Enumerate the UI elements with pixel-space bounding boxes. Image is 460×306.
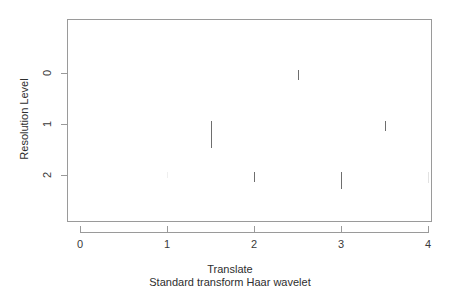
x-axis-title: Translate <box>0 263 460 276</box>
y-tick-1 <box>61 124 67 125</box>
plot-area <box>67 19 432 222</box>
x-tick-label-1: 1 <box>152 238 182 250</box>
coefficient-mark-l2-t2 <box>254 172 255 182</box>
y-tick-0 <box>61 73 67 74</box>
x-tick-1 <box>167 226 168 232</box>
y-tick-label-0: 0 <box>41 66 53 80</box>
y-axis-title: Resolution Level <box>18 59 30 179</box>
x-tick-label-4: 4 <box>413 238 443 250</box>
x-axis-line <box>80 232 429 233</box>
coefficient-mark-l2-t3 <box>341 172 342 189</box>
chart-canvas: 01234 012 Resolution Level Translate Sta… <box>0 0 460 306</box>
coefficient-mark-l1-t1.5 <box>211 121 212 148</box>
y-tick-label-2: 2 <box>41 168 53 182</box>
x-tick-label-2: 2 <box>239 238 269 250</box>
x-tick-label-3: 3 <box>326 238 356 250</box>
chart-subtitle: Standard transform Haar wavelet <box>0 276 460 289</box>
y-tick-2 <box>61 175 67 176</box>
y-axis-line <box>67 55 68 194</box>
y-tick-label-1: 1 <box>41 117 53 131</box>
coefficient-mark-l2-t4 <box>428 172 429 183</box>
x-tick-3 <box>341 226 342 232</box>
x-tick-label-0: 0 <box>65 238 95 250</box>
x-tick-2 <box>254 226 255 232</box>
coefficient-mark-l2-t1 <box>167 172 168 178</box>
coefficient-mark-l0-t2.5 <box>298 70 299 80</box>
x-tick-4 <box>428 226 429 232</box>
x-tick-0 <box>80 226 81 232</box>
coefficient-mark-l1-t3.5 <box>385 121 386 131</box>
